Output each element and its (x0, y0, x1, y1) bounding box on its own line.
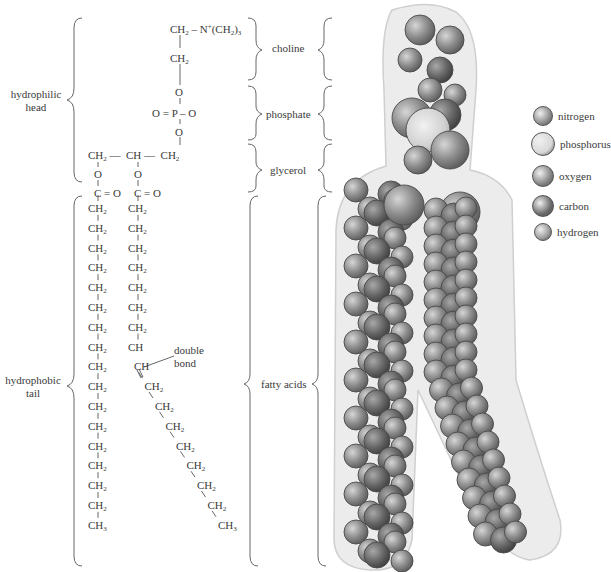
phosphorus-atom-icon (531, 132, 555, 156)
legend-item-oxygen: oxygen (532, 165, 591, 187)
legend-label-carbon: carbon (559, 200, 589, 212)
legend-label-phosphorus: phosphorus (560, 138, 611, 150)
carbon-atom-icon (532, 195, 554, 217)
legend-item-hydrogen: hydrogen (534, 223, 599, 241)
legend-label-hydrogen: hydrogen (557, 226, 599, 238)
hydrogen-atom-icon (534, 223, 552, 241)
nitrogen-atom-icon (533, 106, 553, 126)
legend-item-nitrogen: nitrogen (533, 106, 595, 126)
legend-item-carbon: carbon (532, 195, 589, 217)
legend-label-nitrogen: nitrogen (558, 110, 595, 122)
oxygen-atom-icon (532, 165, 554, 187)
legend-label-oxygen: oxygen (559, 170, 591, 182)
legend-item-phosphorus: phosphorus (531, 132, 611, 156)
